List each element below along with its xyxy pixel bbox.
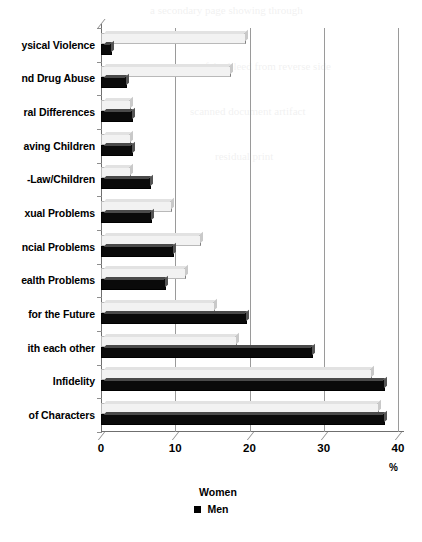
bar-men	[101, 111, 133, 122]
bar-depth-top	[104, 165, 131, 168]
bar-men	[101, 279, 166, 290]
bar-depth-cap	[130, 164, 133, 175]
bar-row: ysical Violence	[101, 28, 398, 62]
bar-depth-cap	[371, 366, 374, 377]
category-label: ysical Violence	[21, 39, 95, 51]
bar-men	[101, 414, 385, 425]
legend-swatch-men-icon	[194, 506, 201, 513]
bar-chart: a secondary page showing through faint b…	[0, 0, 422, 542]
x-axis-tick	[395, 432, 410, 440]
bar-row: for the Future	[101, 297, 398, 331]
category-label: -Law/Children	[27, 173, 95, 185]
x-axis-tick	[98, 432, 113, 440]
x-axis-unit-label: %	[389, 462, 398, 473]
bar-depth-top	[104, 199, 172, 202]
category-label: ealth Problems	[21, 274, 95, 286]
x-axis-tick-label: 20	[243, 442, 256, 454]
bar-row: aving Children	[101, 129, 398, 163]
bar-men	[101, 246, 174, 257]
bar-depth-top	[104, 334, 237, 337]
bar-depth-cap	[384, 377, 387, 388]
bar-men	[101, 145, 133, 156]
bar-depth-top	[104, 300, 215, 303]
bar-depth-top	[104, 98, 131, 101]
bar-depth-top	[104, 266, 187, 269]
y-axis-tick	[97, 432, 102, 433]
category-label: xual Problems	[25, 207, 95, 219]
bar-men	[101, 380, 385, 391]
bar-depth-top	[104, 277, 167, 280]
bar-row: of Characters	[101, 398, 398, 432]
category-label: nd Drug Abuse	[21, 72, 95, 84]
bar-men	[101, 178, 151, 189]
bar-men	[101, 347, 313, 358]
bar-depth-cap	[230, 63, 233, 74]
bar-depth-top	[104, 109, 133, 112]
bar-depth-top	[104, 233, 202, 236]
bar-men	[101, 77, 127, 88]
bar-depth-top	[104, 143, 133, 146]
bar-men	[101, 44, 112, 55]
category-label: for the Future	[28, 308, 95, 320]
bar-depth-top	[104, 244, 174, 247]
category-label: of Characters	[29, 409, 95, 421]
category-label: ith each other	[28, 342, 95, 354]
y-axis-cap	[97, 19, 112, 28]
bar-row: ith each other	[101, 331, 398, 365]
bar-depth-cap	[185, 265, 188, 276]
category-label: ncial Problems	[22, 241, 95, 253]
legend-item-men: Men	[0, 501, 422, 518]
bar-depth-top	[104, 31, 246, 34]
x-axis-tick	[246, 432, 261, 440]
legend-label-men: Men	[207, 501, 228, 518]
bar-depth-top	[104, 64, 231, 67]
plot-area: ysical Violencend Drug Abuseral Differen…	[101, 28, 398, 432]
bar-row: ncial Problems	[101, 230, 398, 264]
bar-depth-top	[104, 412, 386, 415]
legend-item-women: Women	[0, 484, 422, 501]
bar-depth-top	[104, 75, 127, 78]
bar-depth-top	[104, 345, 313, 348]
bar-depth-top	[104, 132, 131, 135]
x-axis-tick-label: 0	[98, 442, 104, 454]
bar-row: Infidelity	[101, 365, 398, 399]
bar-depth-cap	[126, 74, 129, 85]
category-label: Infidelity	[53, 375, 95, 387]
bar-depth-top	[104, 210, 153, 213]
gridline	[398, 28, 399, 432]
category-label: aving Children	[23, 140, 95, 152]
bar-depth-top	[104, 176, 152, 179]
bar-row: ealth Problems	[101, 264, 398, 298]
x-axis-tick-label: 40	[392, 442, 405, 454]
bar-row: nd Drug Abuse	[101, 62, 398, 96]
bar-depth-top	[104, 311, 248, 314]
bar-row: -Law/Children	[101, 163, 398, 197]
bar-depth-cap	[150, 175, 153, 186]
x-axis-tick-label: 30	[317, 442, 330, 454]
bar-depth-top	[104, 367, 372, 370]
bleed-through-text: a secondary page showing through	[150, 4, 303, 16]
x-axis-tick-label: 10	[169, 442, 182, 454]
bar-row: xual Problems	[101, 196, 398, 230]
category-label: ral Differences	[24, 106, 95, 118]
x-axis-tick	[321, 432, 336, 440]
bar-depth-cap	[165, 276, 168, 287]
legend-label-women: Women	[199, 484, 237, 501]
bar-women	[101, 33, 246, 44]
bar-men	[101, 313, 247, 324]
bar-row: ral Differences	[101, 95, 398, 129]
bar-depth-top	[104, 401, 380, 404]
bar-men	[101, 212, 152, 223]
chart-legend: Women Men	[0, 484, 422, 518]
x-axis-tick	[172, 432, 187, 440]
legend-swatch-women-icon	[185, 489, 192, 496]
bar-depth-top	[104, 378, 386, 381]
